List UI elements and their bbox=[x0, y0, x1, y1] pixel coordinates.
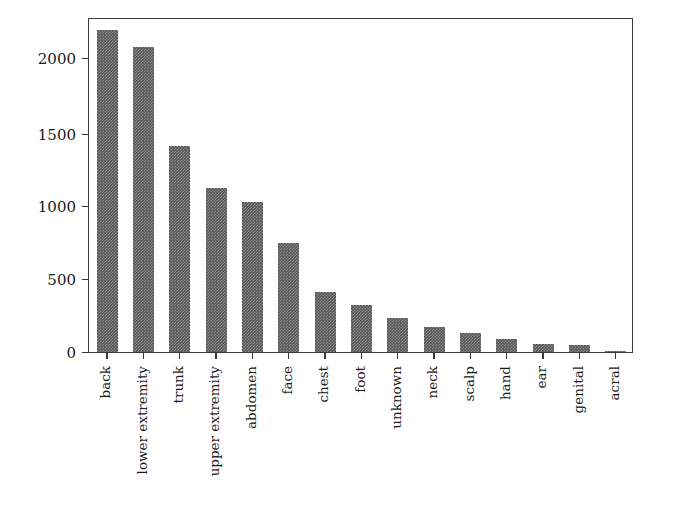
bar bbox=[496, 339, 517, 352]
y-tick-label: 1000 bbox=[6, 200, 76, 215]
x-tick-label: genital bbox=[572, 366, 586, 413]
x-tick-label: acral bbox=[608, 366, 622, 400]
x-tick-label: back bbox=[99, 366, 113, 398]
x-tick-mark bbox=[215, 353, 216, 359]
x-tick-mark bbox=[542, 353, 543, 359]
bar bbox=[533, 344, 554, 352]
bars-layer bbox=[89, 19, 632, 352]
x-tick-mark bbox=[143, 353, 144, 359]
bar bbox=[242, 202, 263, 352]
y-tick-label: 0 bbox=[6, 346, 76, 361]
x-tick-label: ear bbox=[535, 366, 549, 389]
x-tick-label: foot bbox=[354, 366, 368, 393]
x-tick-mark bbox=[433, 353, 434, 359]
x-tick-label: trunk bbox=[172, 366, 186, 403]
x-tick-label: chest bbox=[317, 366, 331, 403]
x-tick-mark bbox=[506, 353, 507, 359]
x-tick-label: lower extremity bbox=[136, 366, 150, 474]
x-tick-mark bbox=[288, 353, 289, 359]
x-tick-mark bbox=[579, 353, 580, 359]
x-tick-label: scalp bbox=[463, 366, 477, 402]
bar bbox=[460, 333, 481, 352]
bar bbox=[605, 351, 626, 352]
bar bbox=[133, 47, 154, 352]
x-tick-label: abdomen bbox=[245, 366, 259, 429]
x-tick-label: face bbox=[281, 366, 295, 395]
x-tick-mark bbox=[361, 353, 362, 359]
x-tick-label: unknown bbox=[390, 366, 404, 429]
bar bbox=[206, 188, 227, 352]
x-tick-mark bbox=[615, 353, 616, 359]
x-tick-label: neck bbox=[426, 366, 440, 398]
x-tick-mark bbox=[324, 353, 325, 359]
plot-area bbox=[88, 18, 633, 353]
bar bbox=[315, 292, 336, 352]
x-tick-mark bbox=[252, 353, 253, 359]
bar bbox=[351, 305, 372, 352]
x-tick-label: hand bbox=[499, 366, 513, 400]
bar bbox=[97, 30, 118, 352]
x-tick-mark bbox=[470, 353, 471, 359]
bar bbox=[424, 327, 445, 352]
x-tick-label: upper extremity bbox=[208, 366, 222, 476]
x-tick-mark bbox=[179, 353, 180, 359]
bar bbox=[387, 318, 408, 352]
bar bbox=[569, 345, 590, 352]
bar bbox=[169, 146, 190, 352]
bar bbox=[278, 243, 299, 353]
x-tick-mark bbox=[397, 353, 398, 359]
y-tick-label: 1500 bbox=[6, 128, 76, 143]
y-tick-label: 500 bbox=[6, 273, 76, 288]
y-tick-label: 2000 bbox=[6, 52, 76, 67]
x-tick-mark bbox=[106, 353, 107, 359]
bar-chart-figure: 0 500 1000 1500 2000 backlower extremity… bbox=[0, 0, 684, 527]
